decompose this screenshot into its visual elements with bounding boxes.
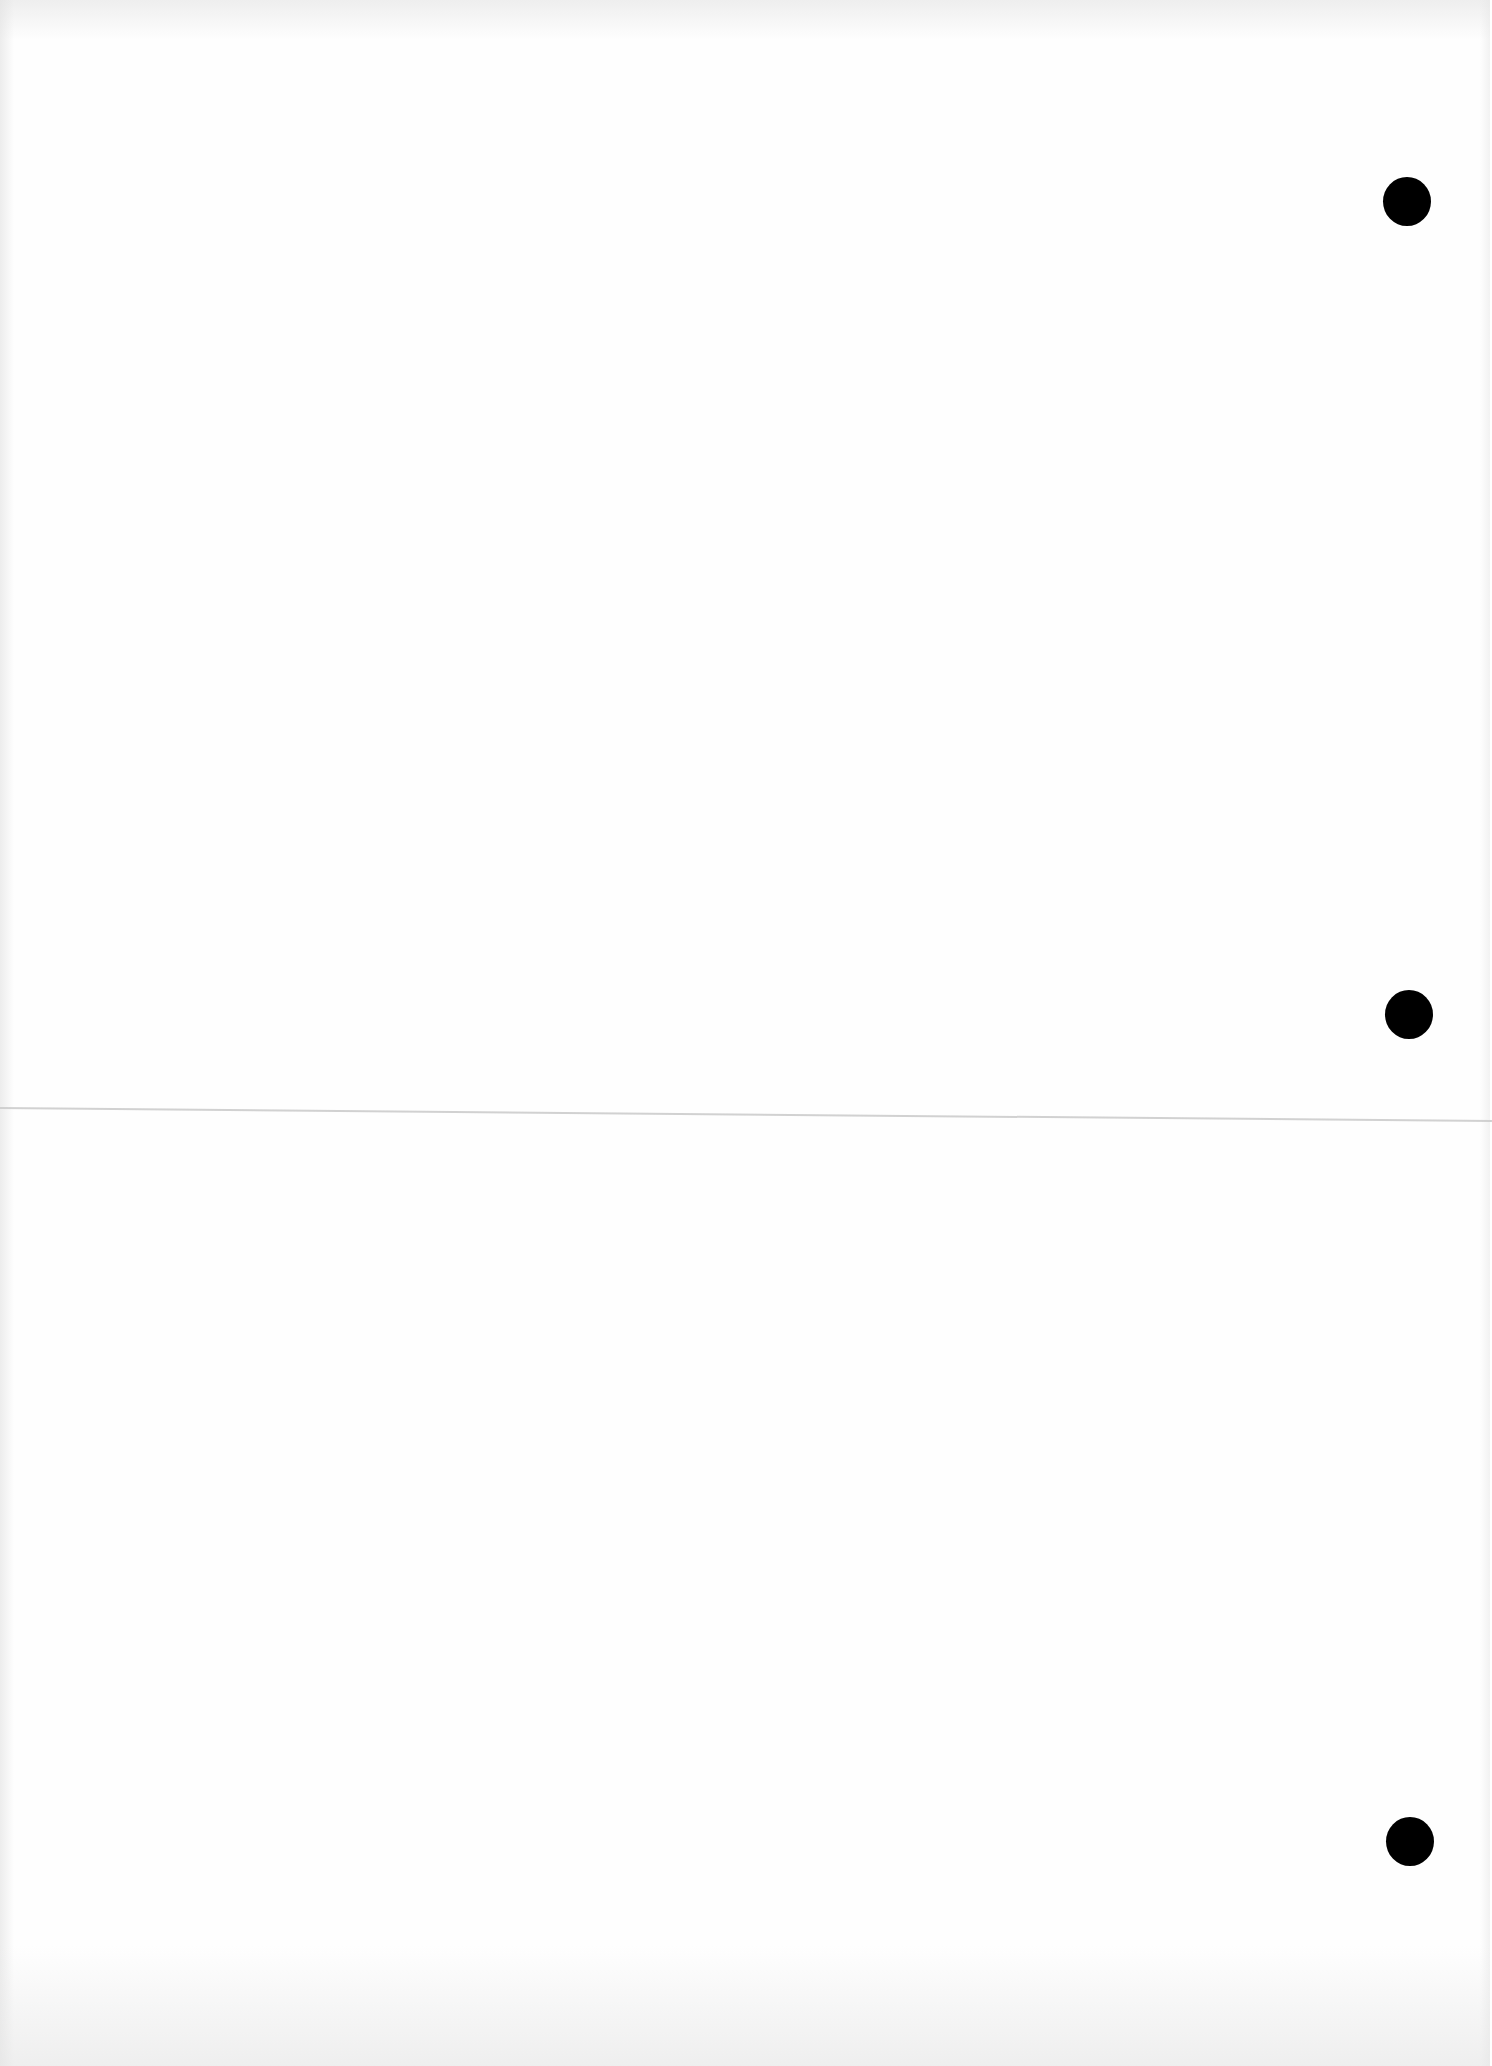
scan-edge-shadow-right — [1480, 0, 1490, 2066]
punch-hole-3 — [1386, 1817, 1434, 1866]
scan-edge-shadow-left — [0, 0, 14, 2066]
punch-hole-2 — [1385, 990, 1433, 1039]
scan-edge-shadow-bottom — [0, 1946, 1490, 2066]
punch-hole-1 — [1383, 177, 1431, 226]
fold-crease — [0, 1107, 1492, 1122]
scan-edge-shadow-top — [0, 0, 1490, 40]
